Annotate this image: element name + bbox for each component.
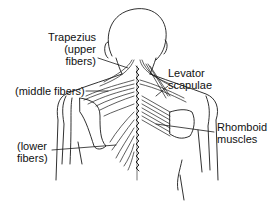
back-muscles-illustration: [0, 0, 274, 221]
label-trapezius-line2: (upper: [44, 43, 96, 55]
leader-trapezius: [98, 58, 128, 68]
levator-scapulae-fibers: [146, 64, 170, 98]
anatomy-diagram: Trapezius (upper fibers) (middle fibers)…: [0, 0, 274, 221]
left-scapula: [80, 98, 106, 149]
label-rhomboid-muscles: Rhomboid muscles: [217, 121, 267, 145]
label-lower-line2: fibers): [17, 152, 48, 164]
leader-lower-fibers: [52, 145, 116, 150]
leader-rhomboid: [156, 124, 214, 132]
right-scapula: [170, 110, 194, 138]
label-lower-line1: (lower: [17, 140, 48, 152]
label-levator-line1: Levator: [168, 67, 212, 79]
head-outline: [108, 9, 166, 60]
left-ear: [105, 42, 108, 58]
label-rhomboid-line2: muscles: [217, 133, 267, 145]
label-trapezius: Trapezius (upper fibers): [44, 31, 96, 67]
label-middle-fibers: (middle fibers): [15, 85, 85, 97]
label-rhomboid-line1: Rhomboid: [217, 121, 267, 133]
rhomboid-fibers: [142, 96, 170, 136]
label-trapezius-line1: Trapezius: [44, 31, 96, 43]
label-levator-line2: scapulae: [168, 79, 212, 91]
label-lower-fibers: (lower fibers): [17, 140, 48, 164]
spine: [136, 66, 139, 171]
label-trapezius-line3: fibers): [44, 55, 96, 67]
trapezius-lower-fibers: [104, 104, 134, 170]
label-levator-scapulae: Levator scapulae: [168, 67, 212, 91]
